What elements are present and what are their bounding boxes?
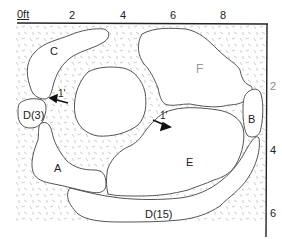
top-axis-unit-label: 0ft (17, 9, 29, 20)
annotation-right-1ft: 1' (160, 111, 167, 121)
right-axis-tick-6: 6 (270, 208, 276, 219)
plan-map-diagram (0, 0, 282, 245)
right-axis-tick-2: 2 (270, 81, 276, 92)
region-b-label: B (248, 114, 255, 125)
central-pillar-outline (74, 67, 145, 136)
region-c-label: C (50, 46, 58, 57)
top-axis-tick-8: 8 (220, 10, 226, 21)
annotation-left-1ft: 1' (58, 89, 65, 99)
region-d3-label: D(3) (23, 110, 44, 121)
region-a-label: A (54, 163, 61, 174)
region-e-label: E (186, 157, 193, 168)
region-d15-label: D(15) (145, 209, 173, 220)
top-axis-tick-6: 6 (170, 10, 176, 21)
region-f-label: F (196, 63, 203, 75)
right-axis-tick-4: 4 (270, 145, 276, 156)
top-axis-tick-2: 2 (69, 10, 75, 21)
top-axis-tick-4: 4 (120, 10, 126, 21)
top-scale-axis (17, 23, 268, 24)
